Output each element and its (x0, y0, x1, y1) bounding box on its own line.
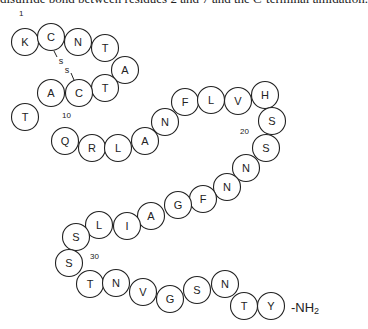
residue-19: S (259, 108, 286, 135)
residue-letter: Q (61, 135, 70, 147)
residue-letter: T (87, 278, 94, 290)
position-label: 20 (240, 127, 249, 136)
residue-16: L (198, 87, 225, 114)
residue-11: R (79, 135, 106, 162)
residue-letter: V (234, 95, 242, 107)
residue-letter: G (166, 293, 175, 305)
residue-letter: A (47, 87, 55, 99)
residue-28: S (63, 224, 90, 251)
residue-36: T (231, 293, 258, 320)
residue-letter: V (139, 286, 147, 298)
residue-31: N (103, 270, 130, 297)
residue-15: F (172, 89, 199, 116)
residue-letter: H (261, 89, 269, 101)
residue-letter: S (65, 257, 72, 269)
residue-29: S (56, 250, 83, 277)
residue-letter: N (223, 181, 231, 193)
residue-letter: C (75, 87, 83, 99)
residue-12: L (105, 135, 132, 162)
residue-letter: N (74, 36, 82, 48)
residue-letter: T (22, 111, 29, 123)
residue-letter: K (21, 36, 29, 48)
position-label: 1 (19, 9, 24, 18)
residue-6: T (92, 75, 119, 102)
residue-4: T (92, 35, 119, 62)
residue-letter: S (262, 142, 269, 154)
residue-9: T (12, 104, 39, 131)
residue-25: A (138, 203, 165, 230)
residue-letter: S (193, 284, 200, 296)
sulfur-label-1: s (59, 56, 64, 66)
residue-35: N (212, 271, 239, 298)
residue-letter: S (268, 115, 275, 127)
residue-17: V (225, 88, 252, 115)
residue-20: S (253, 135, 280, 162)
residue-letter: T (241, 300, 248, 312)
residue-18: H (252, 82, 279, 109)
position-label: 10 (62, 111, 71, 120)
residue-letter: A (121, 64, 129, 76)
residue-letter: T (102, 42, 109, 54)
residue-14: N (152, 109, 179, 136)
residue-letter: L (208, 94, 214, 106)
sulfur-label-2: s (65, 65, 70, 75)
residue-letter: N (161, 116, 169, 128)
residue-letter: L (96, 219, 102, 231)
residue-8: A (38, 80, 65, 107)
residue-letter: S (72, 231, 79, 243)
position-label: 30 (90, 252, 99, 261)
residue-letter: N (112, 277, 120, 289)
residue-32: V (130, 279, 157, 306)
residue-1: K (12, 29, 39, 56)
residue-34: S (184, 277, 211, 304)
residue-22: N (214, 174, 241, 201)
residue-letter: G (174, 199, 183, 211)
residue-letter: I (125, 220, 128, 232)
residue-13: A (132, 128, 159, 155)
c-terminal-amidation: -NH2 (291, 300, 319, 317)
disulfide-bond: s s (54, 51, 74, 80)
residue-26: I (114, 213, 141, 240)
residue-24: G (165, 192, 192, 219)
residue-letter: N (221, 278, 229, 290)
residue-23: F (190, 186, 217, 213)
residue-letter: A (147, 210, 155, 222)
residue-chain: KCNTATCATQRLANFLVHSSNNFGAILSSTNVGSNTY (12, 24, 286, 320)
residue-3: N (65, 29, 92, 56)
residue-letter: N (242, 162, 250, 174)
residue-letter: C (47, 31, 55, 43)
residue-letter: L (115, 142, 121, 154)
residue-7: C (66, 80, 93, 107)
residue-letter: R (88, 142, 96, 154)
residue-10: Q (52, 128, 79, 155)
residue-2: C (38, 24, 65, 51)
residue-30: T (77, 271, 104, 298)
residue-letter: A (141, 135, 149, 147)
residue-letter: T (102, 82, 109, 94)
residue-33: G (157, 286, 184, 313)
residue-37: Y (258, 293, 285, 320)
residue-letter: F (182, 96, 189, 108)
residue-letter: F (200, 193, 207, 205)
residue-letter: Y (267, 300, 275, 312)
